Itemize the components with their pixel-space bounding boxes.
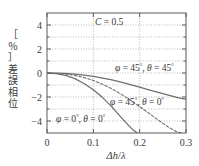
- y-axis-title-char-1: ％: [8, 41, 18, 52]
- x-tick-label-1: 0.1: [87, 137, 100, 148]
- x-tick-labels: 00.10.20.3: [45, 137, 193, 148]
- x-tick-label-3: 0.3: [180, 137, 193, 148]
- y-axis-title-char-2: ］: [8, 52, 18, 63]
- y-axis-title: ［％］差誤相位: [8, 29, 18, 109]
- y-axis-title-char-6: 位: [8, 97, 18, 109]
- x-axis-title: Δh/λ: [106, 150, 126, 161]
- curve-label-phi45-theta0: φ = 45°, θ = 0°: [110, 97, 165, 107]
- y-tick-label-2: 0: [37, 68, 42, 79]
- y-tick-label-1: 2: [37, 44, 42, 55]
- chart-figure: 00.10.20.3 420−2−4 Δh/λ ［％］差誤相位 C = 0.5 …: [0, 0, 199, 166]
- y-tick-label-4: −4: [31, 116, 42, 127]
- y-axis-title-char-0: ［: [8, 29, 18, 40]
- curve-label-phi45-theta45: φ = 45°, θ = 45°: [115, 63, 174, 73]
- curve-label-phi0-theta0: φ = 0°, θ = 0°: [56, 114, 106, 124]
- curve-series-0: [47, 73, 186, 99]
- y-axis-title-char-4: 誤: [8, 74, 18, 86]
- y-tick-labels: 420−2−4: [31, 20, 42, 127]
- y-axis-title-char-3: 差: [8, 63, 18, 75]
- chart-canvas: 00.10.20.3 420−2−4 Δh/λ ［％］差誤相位 C = 0.5 …: [0, 0, 199, 166]
- y-tick-label-3: −2: [31, 92, 42, 103]
- y-tick-label-0: 4: [37, 20, 42, 31]
- y-axis-title-char-5: 相: [8, 86, 18, 98]
- x-tick-label-0: 0: [45, 137, 50, 148]
- annotation-constant: C = 0.5: [95, 17, 124, 27]
- x-tick-label-2: 0.2: [133, 137, 146, 148]
